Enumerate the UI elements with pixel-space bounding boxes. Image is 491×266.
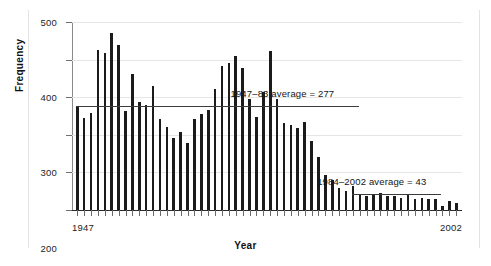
bar: [310, 141, 313, 210]
x-tick: [422, 210, 423, 216]
x-tick: [84, 210, 85, 216]
x-tick: [284, 210, 285, 216]
bar: [338, 188, 341, 210]
bar: [234, 56, 237, 210]
x-tick: [236, 210, 237, 216]
bar: [414, 199, 417, 210]
x-tick: [181, 210, 182, 216]
bar: [421, 198, 424, 210]
x-tick: [132, 210, 133, 216]
bar: [365, 196, 368, 210]
bar: [290, 125, 293, 210]
bar: [255, 117, 258, 210]
x-tick: [126, 210, 127, 216]
bar: [262, 92, 265, 210]
bar: [448, 201, 451, 210]
x-tick: [449, 210, 450, 216]
bar: [117, 45, 120, 210]
bar: [179, 132, 182, 210]
bar: [372, 195, 375, 210]
x-tick: [105, 210, 106, 216]
y-tick-label: 500: [41, 17, 57, 28]
y-axis-title: Frequency: [14, 39, 25, 92]
x-tick: [442, 210, 443, 216]
x-tick: [436, 210, 437, 216]
plot-area: 0100200300400500 1947–83 average = 27719…: [72, 22, 462, 210]
bar: [207, 110, 210, 210]
bar: [296, 128, 299, 210]
bar: [248, 99, 251, 210]
bar: [359, 195, 362, 210]
y-tick: 400: [66, 60, 72, 61]
reference-line-label-2: 1984–2002 average = 43: [317, 176, 426, 187]
bar: [434, 199, 437, 210]
bar: [138, 102, 141, 210]
bar: [166, 127, 169, 210]
x-tick: [291, 210, 292, 216]
x-tick: [456, 210, 457, 216]
bar: [200, 114, 203, 210]
x-tick: [263, 210, 264, 216]
bar: [276, 99, 279, 210]
bar: [110, 33, 113, 210]
bar: [407, 195, 410, 210]
y-axis-spine: [72, 22, 73, 210]
y-tick: 500: [66, 22, 72, 23]
bar: [104, 53, 107, 210]
reference-line-2: [352, 194, 442, 195]
x-tick: [215, 210, 216, 216]
x-axis-start-label: 1947: [72, 222, 94, 233]
y-tick: 100: [66, 172, 72, 173]
figure-left-border: [28, 10, 29, 248]
chart-figure: Frequency 0100200300400500 1947–83 avera…: [0, 0, 491, 266]
bar: [303, 122, 306, 210]
bar: [283, 123, 286, 210]
x-tick: [77, 210, 78, 216]
x-tick: [339, 210, 340, 216]
gridline: [72, 22, 462, 23]
x-tick: [174, 210, 175, 216]
bar: [455, 203, 458, 210]
bar: [90, 113, 93, 210]
x-tick: [401, 210, 402, 216]
bar: [83, 118, 86, 210]
figure-right-border: [479, 10, 480, 248]
bar: [228, 63, 231, 210]
x-tick: [387, 210, 388, 216]
y-tick: 300: [66, 97, 72, 98]
x-tick: [429, 210, 430, 216]
x-tick: [408, 210, 409, 216]
x-tick: [270, 210, 271, 216]
x-axis-end-label: 2002: [440, 222, 462, 233]
x-tick: [160, 210, 161, 216]
bar: [386, 196, 389, 210]
x-tick: [394, 210, 395, 216]
x-tick: [201, 210, 202, 216]
x-tick: [305, 210, 306, 216]
x-tick: [91, 210, 92, 216]
x-tick: [360, 210, 361, 216]
x-tick: [139, 210, 140, 216]
bar: [145, 105, 148, 210]
x-tick: [298, 210, 299, 216]
x-tick: [325, 210, 326, 216]
bar: [352, 186, 355, 210]
bar: [427, 199, 430, 210]
x-tick: [112, 210, 113, 216]
y-tick-label: 400: [41, 92, 57, 103]
x-tick: [243, 210, 244, 216]
gridline: [72, 60, 462, 61]
x-tick: [318, 210, 319, 216]
x-tick: [167, 210, 168, 216]
x-tick: [353, 210, 354, 216]
bar: [76, 107, 79, 210]
bar: [345, 191, 348, 210]
bar: [152, 86, 155, 210]
x-tick: [146, 210, 147, 216]
x-tick: [98, 210, 99, 216]
x-tick: [256, 210, 257, 216]
y-tick: 0: [66, 210, 72, 211]
x-tick: [332, 210, 333, 216]
bar: [97, 50, 100, 210]
x-tick: [312, 210, 313, 216]
